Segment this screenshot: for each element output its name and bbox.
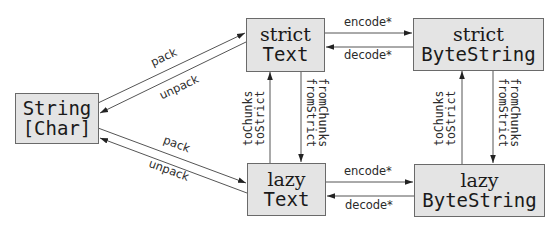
node-strict-text-line1: strict bbox=[260, 25, 311, 45]
node-lazy-bytestring: lazy ByteString bbox=[414, 164, 545, 217]
node-strict-bytestring-line2: ByteString bbox=[421, 45, 535, 65]
label-bs-fromstrict: fromStrict bbox=[497, 78, 509, 147]
label-text-fromchunks: fromChunks bbox=[317, 78, 329, 147]
node-strict-bytestring-line1: strict bbox=[453, 25, 504, 45]
node-strict-bytestring: strict ByteString bbox=[413, 18, 544, 71]
node-lazy-text-line1: lazy bbox=[267, 170, 305, 190]
label-text-fromchunks-fromstrict: fromChunks fromStrict bbox=[305, 78, 329, 147]
label-text-tostrict: toStrict bbox=[254, 91, 266, 146]
node-lazy-bytestring-line1: lazy bbox=[460, 171, 498, 191]
label-decode-lazy: decode* bbox=[345, 198, 393, 212]
node-lazy-text: lazy Text bbox=[247, 163, 326, 216]
label-bs-tochunks-tostrict: toChunks toStrict bbox=[433, 91, 457, 146]
label-text-tochunks-tostrict: toChunks toStrict bbox=[242, 91, 266, 146]
label-bs-tostrict: toStrict bbox=[445, 91, 457, 146]
label-bs-fromchunks: fromChunks bbox=[509, 78, 521, 147]
label-decode-strict: decode* bbox=[344, 48, 392, 62]
node-strict-text-line2: Text bbox=[263, 45, 309, 65]
label-encode-strict: encode* bbox=[344, 15, 392, 29]
node-strict-text: strict Text bbox=[246, 18, 325, 72]
label-bs-fromchunks-fromstrict: fromChunks fromStrict bbox=[497, 78, 521, 147]
node-string-char-line2: [Char] bbox=[23, 119, 92, 139]
node-string-char: String [Char] bbox=[15, 93, 99, 144]
node-lazy-bytestring-line2: ByteString bbox=[422, 191, 536, 211]
node-string-char-line1: String bbox=[23, 99, 92, 119]
label-text-fromstrict: fromStrict bbox=[305, 78, 317, 147]
label-encode-lazy: encode* bbox=[344, 164, 392, 178]
node-lazy-text-line2: Text bbox=[264, 190, 310, 210]
